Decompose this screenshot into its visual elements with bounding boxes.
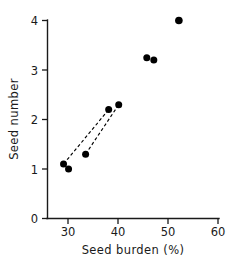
y-tick-label-2: 2 xyxy=(31,113,38,127)
x-axis-title: Seed burden (%) xyxy=(82,243,185,257)
data-point xyxy=(105,106,112,113)
y-axis-ticks xyxy=(42,21,47,219)
connector-lines xyxy=(64,105,119,164)
y-tick-label-0: 0 xyxy=(31,212,38,226)
y-tick-label-3: 3 xyxy=(31,64,38,78)
data-point xyxy=(175,17,183,25)
connector-line-2 xyxy=(86,105,119,154)
plot-canvas: 4 3 2 1 0 30 40 50 60 Seed burden (%) Se… xyxy=(0,0,232,266)
data-point xyxy=(143,54,150,61)
x-tick-label-30: 30 xyxy=(61,225,76,239)
y-tick-label-1: 1 xyxy=(31,163,38,177)
x-tick-label-40: 40 xyxy=(111,225,126,239)
y-tick-label-4: 4 xyxy=(31,14,38,28)
data-point xyxy=(82,151,89,158)
data-point xyxy=(60,161,67,168)
x-tick-label-60: 60 xyxy=(211,225,226,239)
y-axis-tick-labels: 4 3 2 1 0 xyxy=(31,14,38,226)
scatter-plot-figure: 4 3 2 1 0 30 40 50 60 Seed burden (%) Se… xyxy=(0,0,232,266)
x-axis-ticks xyxy=(68,219,218,225)
data-markers xyxy=(60,17,183,173)
data-point xyxy=(65,166,72,173)
data-point xyxy=(150,57,157,64)
x-tick-label-50: 50 xyxy=(161,225,176,239)
y-axis-title: Seed number xyxy=(7,78,21,160)
data-point xyxy=(115,101,122,108)
x-axis-tick-labels: 30 40 50 60 xyxy=(61,225,226,239)
